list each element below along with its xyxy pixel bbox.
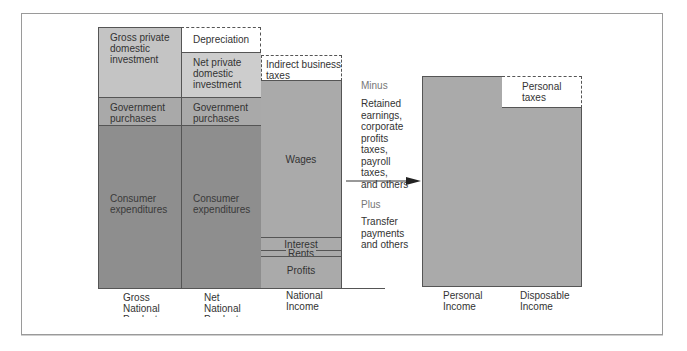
plus-item: Transfer (361, 216, 421, 228)
minus-item: corporate (361, 121, 421, 133)
label-line: Income (286, 301, 323, 312)
nnp-consumer-segment: Consumer expenditures (181, 125, 262, 288)
nnp-government-label: Government purchases (193, 102, 255, 124)
gnp-investment-segment: Gross private domestic investment (98, 27, 181, 97)
label-line: Disposable (520, 290, 569, 301)
column-pi (422, 76, 503, 286)
di-remaining-segment (502, 107, 582, 286)
nnp-depreciation-label: Depreciation (193, 34, 249, 45)
minus-item: taxes, (361, 144, 421, 156)
pi-label: Personal Income (443, 290, 482, 312)
label-line: National (204, 303, 264, 314)
gnp-label: Gross National Product (123, 292, 183, 317)
ni-indirect-taxes-segment: Indirect business taxes (261, 55, 342, 81)
ni-profits-label: Profits (287, 265, 315, 276)
label-line: Product (123, 314, 183, 317)
ni-label: National Income (286, 290, 323, 312)
minus-item: Retained (361, 98, 421, 110)
plus-item: and others (361, 239, 421, 251)
plus-item: payments (361, 228, 421, 240)
label-line: Net (204, 292, 264, 303)
label-line: Personal (443, 290, 482, 301)
minus-item: earnings, (361, 110, 421, 122)
gnp-investment-label: Gross private domestic investment (110, 32, 172, 65)
label-line: Gross (123, 292, 183, 303)
ni-profits-segment: Profits (261, 256, 342, 288)
label-line: National (286, 290, 323, 301)
label-line: Product (204, 314, 264, 317)
baseline-left (98, 288, 385, 289)
minus-item: profits (361, 133, 421, 145)
plus-heading: Plus (361, 199, 380, 211)
minus-item: payroll (361, 156, 421, 168)
di-label: Disposable Income (520, 290, 569, 312)
nnp-label: Net National Product (204, 292, 264, 317)
ni-wages-label: Wages (286, 154, 317, 165)
label-line: Income (520, 301, 569, 312)
nnp-investment-segment: Net private domestic investment (181, 52, 261, 97)
nnp-consumer-label: Consumer expenditures (193, 193, 263, 215)
right-arrow-icon (346, 175, 422, 187)
minus-heading: Minus (361, 80, 388, 92)
plus-items: Transfer payments and others (361, 216, 421, 251)
label-line: Income (443, 301, 482, 312)
nnp-investment-label: Net private domestic investment (193, 57, 261, 90)
gnp-consumer-segment: Consumer expenditures (98, 125, 181, 288)
gnp-consumer-label: Consumer expenditures (110, 193, 180, 215)
gnp-government-segment: Government purchases (98, 97, 181, 125)
di-personal-taxes-label: Personal taxes (522, 81, 572, 103)
nnp-depreciation-segment: Depreciation (181, 27, 261, 52)
ni-wages-segment: Wages (261, 80, 342, 237)
label-line: National (123, 303, 183, 314)
baseline-right (422, 286, 582, 287)
ni-indirect-taxes-label: Indirect business taxes (266, 59, 342, 81)
nnp-government-segment: Government purchases (181, 97, 261, 125)
di-personal-taxes-segment: Personal taxes (502, 76, 582, 108)
gnp-government-label: Government purchases (110, 102, 172, 124)
